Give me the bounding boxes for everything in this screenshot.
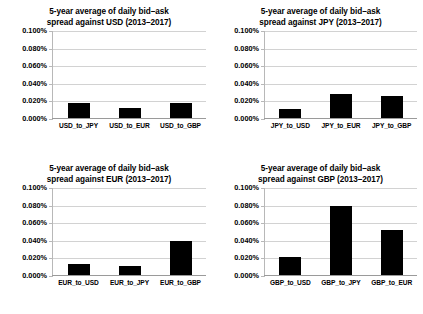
y-axis-tick-mark	[261, 276, 265, 277]
y-axis-tick-mark	[49, 223, 53, 224]
y-axis-tick-label: 0.020%	[22, 97, 47, 105]
y-axis-tick-label: 0.020%	[234, 97, 259, 105]
y-axis-tick-mark	[49, 84, 53, 85]
bar-series	[265, 31, 417, 119]
y-axis-tick-mark	[261, 101, 265, 102]
x-axis-line	[264, 275, 417, 276]
bar-slot	[53, 188, 104, 276]
chart-title: 5-year average of daily bid–ask spread a…	[212, 157, 423, 185]
chart-grid: 5-year average of daily bid–ask spread a…	[0, 0, 423, 314]
bar[interactable]	[68, 103, 90, 119]
x-axis-line	[52, 275, 206, 276]
bar-slot	[104, 31, 155, 119]
x-axis-labels: USD_to_JPYUSD_to_EURUSD_to_GBP	[53, 122, 206, 129]
y-axis-tick-mark	[49, 241, 53, 242]
y-axis-labels: 0.000%0.020%0.040%0.060%0.080%0.100%	[212, 31, 262, 119]
chart-title-line-1: 5-year average of daily bid–ask	[226, 163, 415, 174]
y-axis-tick-label: 0.020%	[234, 254, 259, 262]
plot-canvas	[265, 31, 417, 119]
chart-title-line-1: 5-year average of daily bid–ask	[226, 6, 415, 17]
y-axis-tick-label: 0.000%	[22, 272, 47, 280]
y-axis-tick-mark	[261, 31, 265, 32]
y-axis-tick-label: 0.080%	[22, 202, 47, 210]
y-axis-tick-mark	[49, 276, 53, 277]
y-axis-tick-mark	[261, 188, 265, 189]
bar-slot	[53, 31, 104, 119]
y-axis-tick-label: 0.000%	[22, 115, 47, 123]
x-axis-tick-label: USD_to_JPY	[53, 122, 104, 129]
y-axis-tick-mark	[261, 258, 265, 259]
bar-slot	[366, 188, 417, 276]
chart-panel-usd: 5-year average of daily bid–ask spread a…	[0, 0, 212, 157]
y-axis-tick-label: 0.100%	[234, 184, 259, 192]
y-axis-tick-label: 0.060%	[22, 62, 47, 70]
plot-area: 0.000%0.020%0.040%0.060%0.080%0.100% USD…	[0, 31, 212, 139]
bar-series	[265, 188, 417, 276]
x-axis-tick-label: USD_to_EUR	[104, 122, 155, 129]
bar[interactable]	[381, 230, 403, 276]
x-axis-tick-label: JPY_to_USD	[265, 122, 316, 129]
y-axis-tick-mark	[49, 66, 53, 67]
bar-slot	[366, 31, 417, 119]
y-axis-tick-mark	[49, 119, 53, 120]
y-axis-tick-label: 0.100%	[22, 184, 47, 192]
x-axis-tick-label: EUR_to_USD	[53, 279, 104, 286]
y-axis-tick-mark	[49, 49, 53, 50]
y-axis-tick-label: 0.000%	[234, 272, 259, 280]
x-axis-tick-label: GBP_to_USD	[265, 279, 316, 286]
plot-area: 0.000%0.020%0.040%0.060%0.080%0.100% GBP…	[212, 188, 423, 296]
x-axis-labels: JPY_to_USDJPY_to_EURJPY_to_GBP	[265, 122, 417, 129]
y-axis-labels: 0.000%0.020%0.040%0.060%0.080%0.100%	[0, 188, 50, 276]
y-axis-tick-mark	[261, 84, 265, 85]
bar-slot	[316, 188, 367, 276]
y-axis-tick-label: 0.040%	[234, 237, 259, 245]
x-axis-tick-label: USD_to_GBP	[155, 122, 206, 129]
y-axis-tick-label: 0.040%	[22, 80, 47, 88]
y-axis-tick-mark	[261, 223, 265, 224]
y-axis-tick-label: 0.060%	[234, 62, 259, 70]
x-axis-labels: EUR_to_USDEUR_to_JPYEUR_to_GBP	[53, 279, 206, 286]
bar-slot	[155, 31, 206, 119]
plot-canvas	[53, 188, 206, 276]
x-axis-tick-label: JPY_to_GBP	[366, 122, 417, 129]
bar-slot	[104, 188, 155, 276]
y-axis-tick-mark	[49, 258, 53, 259]
x-axis-tick-label: EUR_to_JPY	[104, 279, 155, 286]
y-axis-tick-label: 0.080%	[234, 202, 259, 210]
y-axis-tick-mark	[49, 101, 53, 102]
y-axis-tick-label: 0.060%	[22, 219, 47, 227]
bar-slot	[265, 188, 316, 276]
chart-title-line-1: 5-year average of daily bid–ask	[14, 6, 204, 17]
bar[interactable]	[330, 94, 352, 119]
x-axis-tick-label: EUR_to_GBP	[155, 279, 206, 286]
bar[interactable]	[170, 241, 192, 276]
x-axis-line	[52, 118, 206, 119]
bar[interactable]	[279, 257, 301, 276]
plot-area: 0.000%0.020%0.040%0.060%0.080%0.100% JPY…	[212, 31, 423, 139]
plot-area: 0.000%0.020%0.040%0.060%0.080%0.100% EUR…	[0, 188, 212, 296]
plot-canvas	[265, 188, 417, 276]
y-axis-tick-label: 0.000%	[234, 115, 259, 123]
y-axis-labels: 0.000%0.020%0.040%0.060%0.080%0.100%	[212, 188, 262, 276]
bar[interactable]	[170, 103, 192, 119]
bar-series	[53, 188, 206, 276]
y-axis-tick-label: 0.040%	[234, 80, 259, 88]
y-axis-tick-label: 0.060%	[234, 219, 259, 227]
chart-title: 5-year average of daily bid–ask spread a…	[212, 0, 423, 28]
bar-slot	[316, 31, 367, 119]
y-axis-tick-mark	[261, 49, 265, 50]
bar[interactable]	[381, 96, 403, 119]
y-axis-tick-mark	[49, 188, 53, 189]
x-axis-tick-label: JPY_to_EUR	[316, 122, 367, 129]
y-axis-tick-label: 0.040%	[22, 237, 47, 245]
chart-title: 5-year average of daily bid–ask spread a…	[0, 157, 212, 185]
x-axis-labels: GBP_to_USDGBP_to_JPYGBP_to_EUR	[265, 279, 417, 286]
y-axis-tick-label: 0.020%	[22, 254, 47, 262]
bar-slot	[265, 31, 316, 119]
chart-panel-jpy: 5-year average of daily bid–ask spread a…	[212, 0, 423, 157]
chart-title-line-1: 5-year average of daily bid–ask	[14, 163, 204, 174]
bar[interactable]	[330, 206, 352, 276]
y-axis-tick-label: 0.080%	[22, 45, 47, 53]
y-axis-tick-mark	[49, 31, 53, 32]
y-axis-tick-mark	[261, 119, 265, 120]
